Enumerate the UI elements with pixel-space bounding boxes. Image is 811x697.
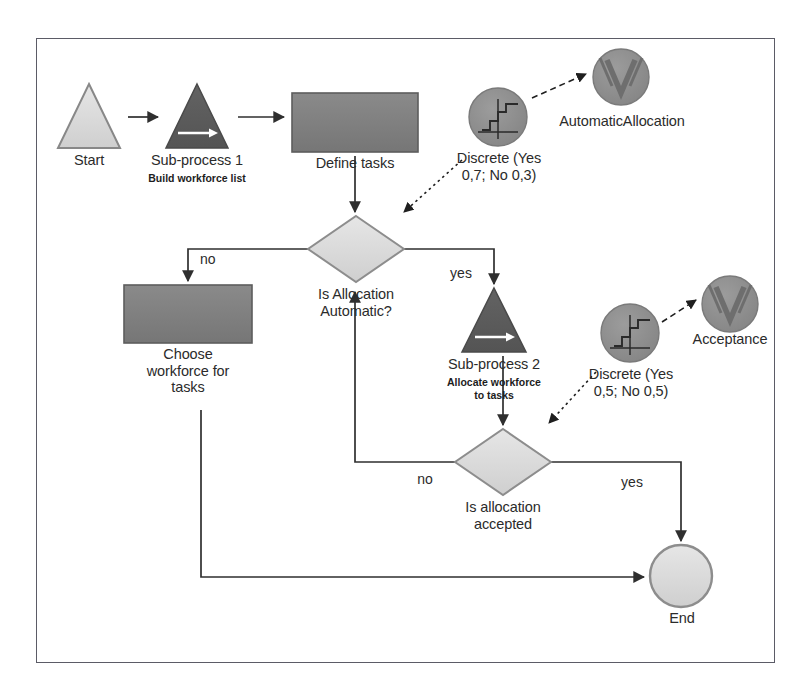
node-discrete-2[interactable] <box>601 304 659 362</box>
label-is-allocation-automatic: Is Allocation Automatic? <box>290 286 422 319</box>
label-define-tasks: Define tasks <box>292 155 418 172</box>
edge-label-yes-1: yes <box>440 266 482 281</box>
label-discrete-2: Discrete (Yes 0,5; No 0,5) <box>570 366 692 399</box>
node-end[interactable] <box>650 545 712 607</box>
label-discrete-1: Discrete (Yes 0,7; No 0,3) <box>438 150 560 183</box>
label-automatic-allocation: AutomaticAllocation <box>536 113 708 130</box>
node-choose-workforce[interactable] <box>124 285 252 343</box>
edge-label-no-1: no <box>186 252 242 267</box>
node-is-allocation-accepted[interactable] <box>455 429 551 495</box>
label-subprocess1: Sub-process 1 <box>139 152 255 169</box>
label-is-allocation-accepted: Is allocation accepted <box>437 499 569 532</box>
label-acceptance: Acceptance <box>673 331 787 348</box>
node-automatic-allocation[interactable] <box>593 49 649 105</box>
label-start: Start <box>54 152 124 169</box>
sublabel-subprocess1: Build workforce list <box>139 172 255 185</box>
edge-decision2-yes-to-end <box>551 462 681 541</box>
label-end: End <box>647 610 717 627</box>
node-discrete-1[interactable] <box>469 88 527 146</box>
edge-choose-workforce-to-end <box>201 410 644 577</box>
label-subprocess2: Sub-process 2 <box>436 356 552 373</box>
edge-discrete2-to-acceptance <box>662 300 696 322</box>
edge-label-yes-2: yes <box>611 475 653 490</box>
node-acceptance[interactable] <box>702 276 758 332</box>
edge-label-no-2: no <box>404 472 446 487</box>
label-choose-workforce: Choose workforce for tasks <box>124 346 252 396</box>
flowchart-canvas <box>0 0 811 697</box>
node-define-tasks[interactable] <box>292 93 418 152</box>
node-subprocess1[interactable] <box>166 84 228 148</box>
node-is-allocation-automatic[interactable] <box>308 216 404 282</box>
node-subprocess2[interactable] <box>462 288 526 352</box>
node-start[interactable] <box>58 84 120 148</box>
sublabel-subprocess2: Allocate workforce to tasks <box>425 376 563 401</box>
edge-discrete1-to-automatic-allocation <box>532 74 586 98</box>
